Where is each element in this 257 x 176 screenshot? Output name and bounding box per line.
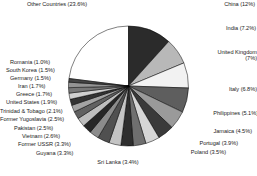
slice-label-united-kingdom-line2: (7%) xyxy=(245,55,257,61)
slice-label-greece: Greece (1.7%) xyxy=(16,91,91,97)
slice-label-portugal: Portugal (3.9%) xyxy=(168,140,238,146)
slice-label-former-ussr: Former USSR (3.3%) xyxy=(18,141,112,147)
slice-label-south-korea: South Korea (1.5%) xyxy=(6,67,90,73)
slice-label-other-countries: Other Countries (23.6%) xyxy=(12,1,102,7)
slice-label-vietnam: Vietnam (2.6%) xyxy=(22,133,106,139)
slice-label-guyana: Guyana (3.3%) xyxy=(36,150,118,156)
slice-label-jamaica: Jamaica (4.5%) xyxy=(182,128,252,134)
slice-label-philippines: Philippines (5.1%) xyxy=(188,110,257,116)
pie-chart-figure: Other Countries (23.6%) Romania (1.0%) S… xyxy=(0,0,257,176)
slice-label-romania: Romania (1.0%) xyxy=(10,59,90,65)
slice-label-india: India (7.2%) xyxy=(186,25,256,31)
slice-label-poland: Poland (3.5%) xyxy=(156,149,226,155)
slice-label-trinidad-and-tobago: Trinidad & Tobago (2.1%) xyxy=(0,108,94,114)
slice-label-iran: Iran (1.7%) xyxy=(18,83,90,89)
slice-label-pakistan: Pakistan (2.5%) xyxy=(14,125,102,131)
slice-label-china: China (12%) xyxy=(163,1,255,7)
slice-label-former-yugoslavia: Former Yugoslavia (2.5%) xyxy=(0,116,98,122)
slice-label-italy: Italy (6.8%) xyxy=(201,86,257,92)
slice-label-united-kingdom-line1: United Kingdom xyxy=(217,49,257,55)
slice-label-united-kingdom: United Kingdom (7%) xyxy=(201,49,257,62)
slice-label-united-states: United States (1.9%) xyxy=(6,99,92,105)
slice-label-sri-lanka: Sri Lanka (3.4%) xyxy=(78,159,158,165)
slice-label-germany: Germany (1.5%) xyxy=(10,75,90,81)
